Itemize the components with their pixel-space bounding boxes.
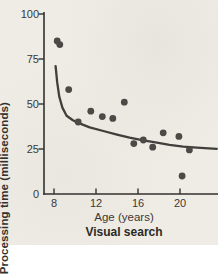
data-point <box>149 144 156 151</box>
data-point <box>186 147 193 154</box>
x-tick-label: 20 <box>174 197 186 209</box>
data-point <box>179 173 186 180</box>
chart-title: Visual search <box>54 225 194 239</box>
fit-curve <box>56 66 217 149</box>
y-axis-label-text: Processing time (milliseconds) <box>0 102 10 274</box>
y-tick-label: 100 <box>21 8 39 20</box>
x-tick-label: 8 <box>51 197 57 209</box>
data-point <box>109 115 116 122</box>
data-point <box>121 99 128 106</box>
data-point <box>65 86 72 93</box>
y-tick-label: 25 <box>27 143 39 155</box>
y-tick-label: 0 <box>33 188 39 200</box>
data-point <box>160 129 167 136</box>
data-point <box>87 108 94 115</box>
data-point <box>99 113 106 120</box>
data-point <box>56 41 63 48</box>
x-tick-label: 16 <box>132 197 144 209</box>
data-point <box>130 140 137 147</box>
x-axis-label: Age (years) <box>54 211 194 223</box>
data-point <box>75 119 82 126</box>
x-tick-label: 12 <box>90 197 102 209</box>
data-point <box>176 133 183 140</box>
y-tick-label: 50 <box>27 98 39 110</box>
data-point <box>140 137 147 144</box>
y-tick-label: 75 <box>27 53 39 65</box>
